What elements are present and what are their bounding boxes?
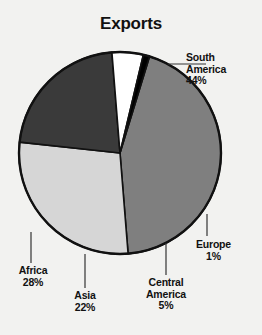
slice-label-central-america-line2: America: [146, 288, 186, 300]
pie-chart-figure: Exports South America 44% Europe 1% Cent…: [0, 0, 262, 335]
slice-label-central-america-line1: Central: [149, 276, 184, 288]
slice-label-europe: Europe 1%: [196, 239, 231, 262]
slice-label-africa: Africa 28%: [6, 265, 60, 288]
slice-value-asia: 22%: [62, 302, 108, 314]
slice-value-south-america: 44%: [186, 75, 226, 87]
slice-label-europe-line1: Europe: [196, 238, 231, 250]
slice-label-central-america: Central America 5%: [127, 277, 205, 312]
slice-label-africa-line1: Africa: [19, 264, 48, 276]
pie-slice-africa: [19, 142, 128, 254]
slice-label-south-america-line1: South: [186, 51, 215, 63]
slice-value-europe: 1%: [196, 251, 231, 263]
slice-label-south-america: South America 44%: [186, 52, 226, 87]
slice-value-africa: 28%: [6, 277, 60, 289]
slice-value-central-america: 5%: [127, 300, 205, 312]
pie-slice-asia: [20, 52, 120, 153]
slice-label-asia: Asia 22%: [62, 290, 108, 313]
slice-label-asia-line1: Asia: [74, 289, 95, 301]
slice-label-south-america-line2: America: [186, 63, 226, 75]
